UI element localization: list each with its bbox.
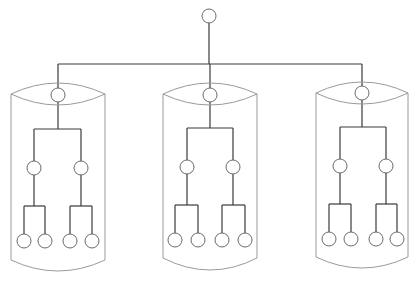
leaf-node-left-0 — [17, 234, 31, 248]
leaf-node-right-3 — [390, 232, 404, 246]
leaf-node-right-0 — [322, 232, 336, 246]
leaf-node-left-3 — [85, 234, 99, 248]
leaf-node-middle-1 — [191, 233, 205, 247]
tree-diagram — [0, 0, 418, 283]
root-node — [202, 9, 216, 23]
mid-node-middle-1 — [226, 160, 240, 174]
group-top-node-right — [355, 86, 369, 100]
mid-node-left-1 — [74, 161, 88, 175]
mid-node-right-0 — [333, 159, 347, 173]
leaf-node-right-2 — [369, 232, 383, 246]
mid-node-right-1 — [379, 159, 393, 173]
leaf-node-left-1 — [38, 234, 52, 248]
leaf-node-middle-0 — [168, 233, 182, 247]
mid-node-middle-0 — [180, 160, 194, 174]
mid-node-left-0 — [27, 161, 41, 175]
leaf-node-middle-3 — [238, 233, 252, 247]
connector-wires — [24, 23, 397, 234]
group-top-node-left — [51, 88, 65, 102]
leaf-node-middle-2 — [215, 233, 229, 247]
leaf-node-left-2 — [63, 234, 77, 248]
leaf-node-right-1 — [344, 232, 358, 246]
group-top-node-middle — [203, 88, 217, 102]
